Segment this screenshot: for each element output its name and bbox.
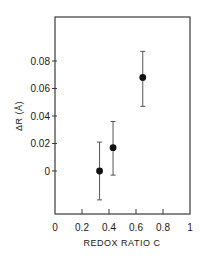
x-tick-label: 0.8 (156, 222, 170, 233)
y-tick-label: 0 (44, 166, 50, 177)
x-tick-label: 1 (187, 222, 193, 233)
y-tick-label: 0.06 (31, 83, 51, 94)
x-tick-label: 0.2 (75, 222, 89, 233)
data-point (139, 51, 146, 106)
data-series (96, 51, 146, 200)
marker-dot (139, 74, 146, 81)
scatter-chart: 00.020.040.060.08 00.20.40.60.81 REDOX R… (0, 0, 202, 259)
x-tick-label: 0.4 (102, 222, 116, 233)
y-tick-label: 0.08 (31, 56, 51, 67)
data-point (110, 122, 117, 176)
marker-dot (110, 144, 117, 151)
y-tick-label: 0.04 (31, 111, 51, 122)
y-axis: 00.020.040.060.08 (31, 56, 57, 177)
y-tick-label: 0.02 (31, 138, 51, 149)
x-tick-label: 0.6 (129, 222, 143, 233)
y-axis-label: ΔR (Å) (14, 101, 24, 131)
x-tick-label: 0 (52, 222, 58, 233)
x-axis: 00.20.40.60.81 (52, 209, 193, 233)
x-axis-label: REDOX RATIO C (84, 238, 161, 248)
plot-frame (55, 17, 190, 214)
data-point (96, 142, 103, 200)
marker-dot (96, 168, 103, 175)
